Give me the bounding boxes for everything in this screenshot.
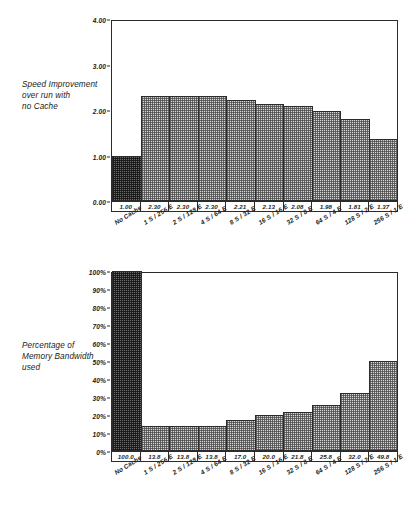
category-label: 64 S / 4 E <box>314 212 344 230</box>
bar <box>369 139 399 201</box>
y-axis-tick-label: 40% <box>93 377 107 384</box>
bar <box>283 412 313 451</box>
y-axis-tick-mark <box>107 326 110 327</box>
y-axis-tick-label: 100% <box>89 269 106 276</box>
bar <box>312 111 342 201</box>
category-label: No Cache <box>113 462 144 480</box>
category-label: 8 S / 32 E <box>228 212 258 230</box>
category-label: 32 S / 8 E <box>285 212 315 230</box>
category-label: No Cache <box>113 212 144 230</box>
y-axis-tick-mark <box>107 156 110 157</box>
y-axis-tick-mark <box>107 290 110 291</box>
y-axis-tick-mark <box>107 452 110 453</box>
category-label: 32 S / 8 E <box>285 462 315 480</box>
bar <box>169 426 199 451</box>
speed-chart-bars <box>112 21 397 201</box>
y-axis-tick-mark <box>107 380 110 381</box>
y-axis-tick-mark <box>107 65 110 66</box>
y-axis-tick-label: 3.00 <box>93 62 106 69</box>
bar <box>312 405 342 451</box>
speed-chart-plot-area <box>111 20 398 202</box>
y-axis-tick-label: 70% <box>93 323 107 330</box>
category-label: 64 S / 4 E <box>314 462 344 480</box>
bar <box>283 106 313 201</box>
y-axis-tick-label: 90% <box>93 287 107 294</box>
y-axis-tick-label: 50% <box>93 359 107 366</box>
y-axis-tick-mark <box>107 308 110 309</box>
y-axis-tick-mark <box>107 398 110 399</box>
y-axis-tick-label: 80% <box>93 305 107 312</box>
y-axis-tick-mark <box>107 202 110 203</box>
bar <box>369 361 399 451</box>
y-axis-tick-mark <box>107 434 110 435</box>
y-axis-tick-label: 4.00 <box>93 17 106 24</box>
speed-chart-category-labels: No Cache1 S / 256 E2 S / 128 E4 S / 64 E… <box>111 212 398 254</box>
y-axis-tick-mark <box>107 111 110 112</box>
memory-bandwidth-panel: Percentage of Memory Bandwidth used 0%10… <box>0 253 417 505</box>
category-label: 4 S / 64 E <box>199 212 229 230</box>
bar <box>112 271 142 451</box>
category-label: 256 S / 1 E <box>372 462 405 480</box>
y-axis-tick-mark <box>107 20 110 21</box>
y-axis-tick-label: 0% <box>96 449 106 456</box>
bar <box>112 156 142 202</box>
speed-chart-y-axis: 0.001.002.003.004.00 <box>60 20 110 202</box>
bar <box>169 96 199 201</box>
y-axis-tick-label: 2.00 <box>93 108 106 115</box>
y-axis-tick-mark <box>107 362 110 363</box>
speed-improvement-panel: Speed Improvement over run with no Cache… <box>0 0 417 253</box>
category-label: 256 S / 1 E <box>372 212 405 230</box>
category-label: 8 S / 32 E <box>228 462 258 480</box>
bar <box>141 426 171 451</box>
bandwidth-chart-category-labels: No Cache1 S / 256 E2 S / 128 E4 S / 64 E… <box>111 462 398 504</box>
bar <box>255 415 285 451</box>
bar <box>340 119 370 201</box>
bar <box>141 96 171 201</box>
y-axis-tick-label: 0.00 <box>93 199 106 206</box>
y-axis-tick-mark <box>107 416 110 417</box>
bandwidth-chart-bars <box>112 273 397 451</box>
bar <box>226 420 256 451</box>
bandwidth-chart-y-axis: 0%10%20%30%40%50%60%70%80%90%100% <box>60 272 110 452</box>
y-axis-tick-mark <box>107 344 110 345</box>
y-axis-tick-mark <box>107 272 110 273</box>
y-axis-tick-label: 30% <box>93 395 107 402</box>
bandwidth-chart-plot-area <box>111 272 398 452</box>
category-label: 4 S / 64 E <box>199 462 229 480</box>
y-axis-tick-label: 20% <box>93 413 107 420</box>
y-axis-tick-label: 60% <box>93 341 107 348</box>
bar <box>340 393 370 451</box>
y-axis-tick-label: 1.00 <box>93 153 106 160</box>
y-axis-tick-label: 10% <box>93 431 107 438</box>
bar <box>226 100 256 201</box>
bar <box>255 104 285 201</box>
bar <box>198 96 228 201</box>
bar <box>198 426 228 451</box>
